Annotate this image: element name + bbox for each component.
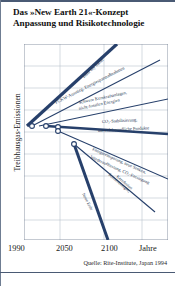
data-point-marker — [56, 129, 61, 134]
x-tick-1990: 1990 — [8, 244, 25, 253]
figure-top-border — [0, 0, 175, 2]
x-tick-2050: 2050 — [56, 244, 73, 253]
page-title: Das »New Earth 21«-Konzept Anpassung und… — [13, 7, 165, 29]
plot-area: unter my babin FCKW-Ausstieg, Energiespa… — [24, 44, 168, 240]
data-point-marker — [44, 124, 49, 129]
title-line-2: Anpassung und Risikotechnologie — [13, 18, 165, 29]
cut-off-caption — [2, 279, 122, 284]
y-axis-label: Treibhausgas-Emissionen — [13, 58, 22, 208]
x-tick-2100: 2100 — [101, 244, 118, 253]
x-axis-labels: 1990 2050 2100 Jahre — [0, 244, 175, 258]
figure-container: Das »New Earth 21«-Konzept Anpassung und… — [0, 0, 175, 286]
title-line-1: Das »New Earth 21«-Konzept — [13, 7, 165, 18]
data-point-marker — [72, 142, 77, 147]
x-axis-unit-label: Jahre — [139, 244, 157, 253]
data-point-marker — [30, 124, 35, 129]
line-chart-svg: unter my babin FCKW-Ausstieg, Energiespa… — [24, 44, 168, 240]
figure-bottom-border — [0, 272, 175, 273]
source-note: Quelle: Rite-Institute, Japan 1994 — [0, 259, 167, 266]
